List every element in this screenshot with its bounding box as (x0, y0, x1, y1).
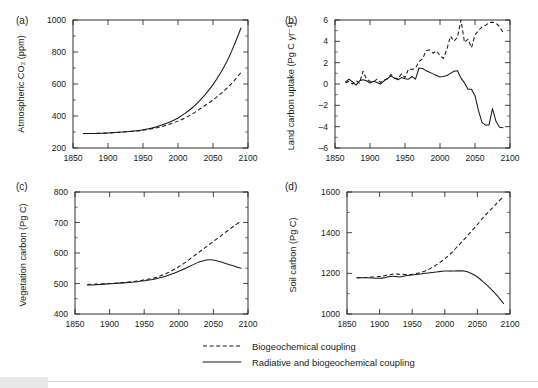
x-tick-label: 2100 (500, 319, 519, 329)
x-tick-label: 2100 (238, 153, 257, 163)
panel-b-y-axis-title: Land carbon uptake (Pg C yr⁻¹) (286, 22, 296, 151)
footer-tab-block (0, 377, 48, 388)
series-line-dashed (346, 20, 504, 84)
y-tick-label: 200 (52, 143, 67, 153)
legend-label-radiative: Radiative and biogeochemical coupling (252, 357, 415, 368)
x-tick-label: 1850 (325, 153, 344, 163)
y-tick-label: 400 (54, 309, 69, 319)
x-tick-label: 1950 (395, 153, 414, 163)
legend-label-biogeochemical: Biogeochemical coupling (252, 341, 356, 352)
y-tick-label: 0 (323, 79, 328, 89)
panel-d: (d) Soil carbon (Pg C) 10001200140016001… (285, 181, 520, 329)
figure-root: (a) Atmospheric CO₂ (ppm) 20040060080010… (0, 0, 538, 388)
series-line-solid (87, 260, 241, 285)
x-tick-label: 2000 (430, 153, 449, 163)
x-tick-label: 2100 (500, 153, 519, 163)
x-tick-label: 2050 (465, 153, 484, 163)
panel-a-plot-area: 2004006008001000185019001950200020502100 (47, 15, 258, 163)
y-tick-label: 4 (323, 36, 328, 46)
y-tick-label: –4 (318, 122, 328, 132)
x-tick-label: 2000 (169, 319, 188, 329)
series-line-solid (346, 68, 504, 128)
x-tick-label: 1900 (100, 319, 119, 329)
y-tick-label: 400 (52, 111, 67, 121)
x-tick-label: 1950 (403, 319, 422, 329)
y-tick-label: 700 (54, 218, 69, 228)
x-tick-label: 2100 (238, 319, 257, 329)
y-tick-label: 600 (54, 248, 69, 258)
series-line-solid (84, 28, 242, 134)
plot-frame (75, 192, 248, 314)
series-line-solid (357, 271, 504, 304)
panel-a: (a) Atmospheric CO₂ (ppm) 20040060080010… (16, 15, 258, 163)
plot-frame (347, 192, 510, 314)
x-tick-label: 2050 (204, 319, 223, 329)
x-tick-label: 1900 (360, 153, 379, 163)
panel-b: (b) Land carbon uptake (Pg C yr⁻¹) –6–4–… (285, 15, 520, 163)
x-tick-label: 2050 (203, 153, 222, 163)
y-tick-label: 1400 (321, 228, 340, 238)
panel-c-y-axis-title: Vegetation carbon (Pg C) (18, 203, 28, 306)
footer-decoration (0, 377, 538, 388)
x-tick-label: 1950 (135, 319, 154, 329)
series-line-dashed (357, 196, 504, 277)
y-tick-label: 500 (54, 279, 69, 289)
x-tick-label: 2000 (168, 153, 187, 163)
y-tick-label: –6 (318, 143, 328, 153)
x-tick-label: 1850 (337, 319, 356, 329)
x-tick-label: 2000 (435, 319, 454, 329)
series-line-dashed (87, 221, 241, 284)
x-tick-label: 2050 (468, 319, 487, 329)
panel-c-label: (c) (16, 181, 28, 192)
y-tick-label: 1600 (321, 187, 340, 197)
x-tick-label: 1900 (370, 319, 389, 329)
panel-d-plot-area: 1000120014001600185019001950200020502100 (321, 187, 520, 329)
y-tick-label: 1200 (321, 268, 340, 278)
y-tick-label: –2 (318, 100, 328, 110)
panel-a-label: (a) (16, 15, 28, 26)
panel-a-y-axis-title: Atmospheric CO₂ (ppm) (16, 35, 26, 133)
y-tick-label: 800 (54, 187, 69, 197)
y-tick-label: 600 (52, 79, 67, 89)
x-tick-label: 1850 (65, 319, 84, 329)
panel-c: (c) Vegetation carbon (Pg C) 40050060070… (16, 181, 258, 329)
panel-d-y-axis-title: Soil carbon (Pg C) (288, 217, 298, 292)
figure-legend: Biogeochemical coupling Radiative and bi… (203, 341, 415, 368)
plot-frame (335, 20, 510, 148)
y-tick-label: 800 (52, 47, 67, 57)
y-tick-label: 6 (323, 15, 328, 25)
x-tick-label: 1850 (63, 153, 82, 163)
x-tick-label: 1950 (133, 153, 152, 163)
y-tick-label: 1000 (321, 309, 340, 319)
panel-d-label: (d) (285, 181, 297, 192)
plot-frame (73, 20, 248, 148)
y-tick-label: 2 (323, 58, 328, 68)
panel-c-plot-area: 400500600700800185019001950200020502100 (54, 187, 258, 329)
x-tick-label: 1900 (98, 153, 117, 163)
panel-b-plot-area: –6–4–20246185019001950200020502100 (318, 15, 519, 163)
y-tick-label: 1000 (47, 15, 66, 25)
